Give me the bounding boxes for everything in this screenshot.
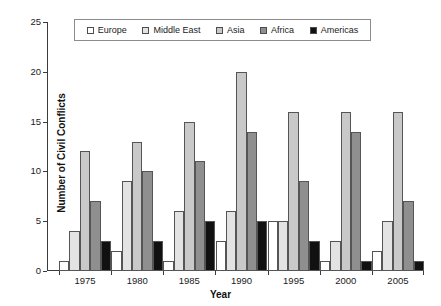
x-tick-mark: [372, 271, 373, 275]
bar: [247, 132, 257, 271]
y-axis-line: [47, 22, 48, 271]
y-tick-mark: [43, 271, 47, 272]
y-tick-label: 25: [30, 17, 41, 27]
bar: [216, 241, 226, 271]
bar: [153, 241, 163, 271]
bar: [257, 221, 267, 271]
y-tick-label: 20: [30, 67, 41, 77]
bar: [341, 112, 351, 271]
y-tick-mark: [43, 122, 47, 123]
bar: [184, 122, 194, 271]
bar: [278, 221, 288, 271]
y-tick-mark: [43, 22, 47, 23]
bar: [309, 241, 319, 271]
bar: [80, 151, 90, 271]
bar: [59, 261, 69, 271]
bar: [142, 171, 152, 271]
x-tick-mark: [215, 271, 216, 275]
y-tick-label: 15: [30, 117, 41, 127]
x-tick-mark: [423, 271, 424, 275]
bar: [132, 142, 142, 271]
y-tick-mark: [43, 171, 47, 172]
x-tick-label: 2000: [335, 276, 356, 286]
bar: [372, 251, 382, 271]
x-tick-label: 1990: [231, 276, 252, 286]
plot-area: 05101520251975198019851990199520002005: [47, 22, 424, 271]
y-tick-label: 10: [30, 167, 41, 177]
x-tick-label: 2005: [387, 276, 408, 286]
bar: [351, 132, 361, 271]
bar: [382, 221, 392, 271]
bar: [163, 261, 173, 271]
bar: [205, 221, 215, 271]
x-tick-label: 1975: [74, 276, 95, 286]
bar: [361, 261, 371, 271]
bar: [414, 261, 424, 271]
y-tick-label: 5: [36, 216, 41, 226]
y-tick-mark: [43, 72, 47, 73]
bar: [101, 241, 111, 271]
bar: [90, 201, 100, 271]
x-tick-label: 1995: [283, 276, 304, 286]
bar: [174, 211, 184, 271]
bar: [268, 221, 278, 271]
bar: [288, 112, 298, 271]
bar: [403, 201, 413, 271]
bar: [111, 251, 121, 271]
y-tick-mark: [43, 221, 47, 222]
x-tick-mark: [111, 271, 112, 275]
x-tick-mark: [163, 271, 164, 275]
bar: [122, 181, 132, 271]
x-tick-label: 1980: [127, 276, 148, 286]
bar: [195, 161, 205, 271]
bar: [236, 72, 246, 271]
bar: [330, 241, 340, 271]
x-tick-mark: [320, 271, 321, 275]
bar-chart-figure: EuropeMiddle EastAsiaAfricaAmericas 0510…: [0, 0, 441, 306]
bar: [299, 181, 309, 271]
y-axis-title: Number of Civil Conflicts: [56, 93, 67, 212]
x-tick-mark: [59, 271, 60, 275]
bar: [69, 231, 79, 271]
x-axis-title: Year: [0, 289, 441, 300]
bar: [226, 211, 236, 271]
y-tick-label: 0: [36, 266, 41, 276]
bar: [393, 112, 403, 271]
x-tick-mark: [268, 271, 269, 275]
bar: [320, 261, 330, 271]
x-tick-label: 1985: [179, 276, 200, 286]
